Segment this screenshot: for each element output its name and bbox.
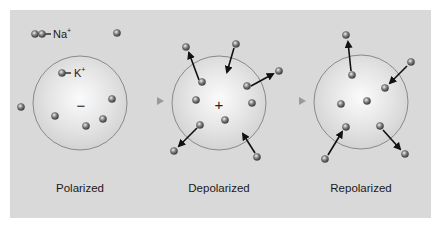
stage-label-repolarized: Repolarized [330, 182, 391, 194]
ion-icon [99, 115, 106, 122]
ion-icon [381, 84, 388, 91]
ion-icon [108, 95, 115, 102]
ion-icon [170, 147, 177, 154]
ion-icon [232, 40, 239, 47]
depolarized-charge-sign: + [215, 96, 224, 113]
ion-icon [113, 29, 120, 36]
ion-icon [51, 112, 58, 119]
ion-icon [17, 103, 24, 110]
transition-arrowhead-icon [157, 97, 164, 105]
stage-label-depolarized: Depolarized [188, 182, 249, 194]
legend-ion-icon [58, 69, 65, 76]
legend-ion-icon [38, 30, 45, 37]
ion-icon [348, 71, 355, 78]
ion-icon [243, 82, 250, 89]
potassium-charge: + [81, 66, 85, 73]
sodium-legend-label: Na+ [53, 27, 71, 40]
transition-arrowhead-icon [299, 97, 306, 105]
cell-repolarized [314, 55, 408, 149]
ion-icon [363, 97, 370, 104]
ion-icon [275, 67, 282, 74]
ion-icon [376, 122, 383, 129]
polarized-charge-sign: − [77, 97, 86, 114]
ion-icon [192, 96, 199, 103]
ion-icon [182, 43, 189, 50]
ion-icon [221, 116, 228, 123]
ion-icon [31, 30, 38, 37]
ion-icon [321, 155, 328, 162]
ion-icon [337, 100, 344, 107]
ion-icon [196, 121, 203, 128]
ion-icon [407, 58, 414, 65]
potassium-legend-label: K+ [74, 66, 85, 79]
ion-icon [342, 123, 349, 130]
ion-icon [401, 150, 408, 157]
stage-label-polarized: Polarized [56, 182, 104, 194]
ion-icon [248, 99, 255, 106]
ion-icon [198, 78, 205, 85]
ion-icon [82, 122, 89, 129]
sodium-symbol: Na [53, 28, 67, 40]
ion-icon [342, 31, 349, 38]
sodium-charge: + [67, 27, 71, 34]
ion-icon [253, 153, 260, 160]
